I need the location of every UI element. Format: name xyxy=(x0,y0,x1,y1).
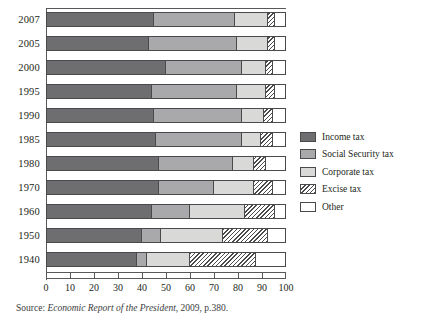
y-axis-label-2005: 2005 xyxy=(0,38,40,49)
x-axis-tick-90 xyxy=(262,273,263,279)
bar-row xyxy=(46,36,286,51)
y-axis-label-1940: 1940 xyxy=(0,254,40,265)
legend-label: Income tax xyxy=(322,132,364,142)
bar-segment-corporate-tax xyxy=(242,109,263,122)
bar-row xyxy=(46,156,286,171)
bar-segment-excise-tax xyxy=(264,109,274,122)
legend-item: Social Security tax xyxy=(300,147,420,162)
y-axis-label-1970: 1970 xyxy=(0,182,40,193)
bar-segment-social-security-tax xyxy=(152,85,238,98)
bar-segment-other xyxy=(275,85,285,98)
bar-segment-income-tax xyxy=(47,109,154,122)
bar-segment-income-tax xyxy=(47,61,166,74)
legend-swatch-other xyxy=(300,202,316,212)
bar-segment-other xyxy=(266,157,285,170)
bar-segment-social-security-tax xyxy=(154,109,242,122)
x-axis-ticklabel-30: 30 xyxy=(113,282,123,293)
bar-segment-other xyxy=(256,253,285,266)
bar-segment-other xyxy=(273,109,285,122)
bar-segment-other xyxy=(273,181,285,194)
bar-segment-income-tax xyxy=(47,37,149,50)
bar-segment-excise-tax xyxy=(268,13,275,26)
bar-segment-corporate-tax xyxy=(190,205,245,218)
bar-segment-excise-tax xyxy=(261,133,273,146)
bar-segment-social-security-tax xyxy=(154,13,235,26)
legend-label: Corporate tax xyxy=(322,167,374,177)
source-suffix: , 2009, p.380. xyxy=(176,303,228,313)
x-axis-ticklabel-70: 70 xyxy=(209,282,219,293)
bar-segment-other xyxy=(273,133,285,146)
legend-label: Other xyxy=(322,202,344,212)
x-axis-tick-100 xyxy=(285,273,286,279)
bar-segment-income-tax xyxy=(47,181,159,194)
stacked-bar-1960 xyxy=(46,204,286,219)
y-axis-label-1995: 1995 xyxy=(0,86,40,97)
bar-segment-excise-tax xyxy=(223,229,268,242)
chart-legend: Income taxSocial Security taxCorporate t… xyxy=(300,129,420,217)
bar-segment-excise-tax xyxy=(266,61,273,74)
bar-row xyxy=(46,60,286,75)
x-axis-ticklabel-40: 40 xyxy=(137,282,147,293)
source-note: Source: Economic Report of the President… xyxy=(16,303,228,313)
stacked-bar-1950 xyxy=(46,228,286,243)
y-axis-label-1990: 1990 xyxy=(0,110,40,121)
stacked-bar-2005 xyxy=(46,36,286,51)
legend-item: Corporate tax xyxy=(300,164,420,179)
legend-label: Excise tax xyxy=(322,184,361,194)
bar-segment-social-security-tax xyxy=(166,61,242,74)
stacked-bar-1980 xyxy=(46,156,286,171)
bar-segment-corporate-tax xyxy=(233,157,254,170)
bar-segment-other xyxy=(273,61,285,74)
bar-segment-social-security-tax xyxy=(149,37,237,50)
bar-row xyxy=(46,132,286,147)
figure-stacked-bar-federal-tax-revenue-sources: Income taxSocial Security taxCorporate t… xyxy=(0,0,421,328)
bar-segment-income-tax xyxy=(47,157,159,170)
bar-segment-other xyxy=(275,13,285,26)
bar-row xyxy=(46,180,286,195)
bar-segment-corporate-tax xyxy=(242,61,266,74)
x-axis-tick-0 xyxy=(46,273,47,279)
legend-item: Excise tax xyxy=(300,182,420,197)
bar-segment-social-security-tax xyxy=(152,205,190,218)
x-axis-tick-10 xyxy=(70,273,71,279)
x-axis-ticklabel-80: 80 xyxy=(233,282,243,293)
legend-item: Income tax xyxy=(300,129,420,144)
bar-segment-excise-tax xyxy=(254,157,266,170)
bar-segment-excise-tax xyxy=(268,37,275,50)
bar-segment-income-tax xyxy=(47,253,137,266)
source-prefix: Source: xyxy=(16,303,47,313)
bar-segment-income-tax xyxy=(47,229,142,242)
legend-swatch-income-tax xyxy=(300,132,316,142)
y-axis-label-1950: 1950 xyxy=(0,230,40,241)
bar-segment-corporate-tax xyxy=(161,229,223,242)
legend-label: Social Security tax xyxy=(322,149,394,159)
bar-segment-excise-tax xyxy=(245,205,276,218)
bar-segment-social-security-tax xyxy=(137,253,147,266)
x-axis-tick-30 xyxy=(118,273,119,279)
bar-segment-corporate-tax xyxy=(147,253,190,266)
bar-row xyxy=(46,204,286,219)
bar-row xyxy=(46,12,286,27)
stacked-bar-1940 xyxy=(46,252,286,267)
bar-segment-excise-tax xyxy=(190,253,257,266)
x-axis-ticklabel-10: 10 xyxy=(65,282,75,293)
bar-row xyxy=(46,252,286,267)
x-axis-tick-60 xyxy=(190,273,191,279)
x-axis-tick-50 xyxy=(166,273,167,279)
x-axis-ticklabel-60: 60 xyxy=(185,282,195,293)
x-axis-tick-80 xyxy=(238,273,239,279)
bar-segment-corporate-tax xyxy=(237,37,268,50)
x-axis-ticklabel-0: 0 xyxy=(44,282,49,293)
x-axis-tick-70 xyxy=(214,273,215,279)
bar-segment-social-security-tax xyxy=(159,181,214,194)
bar-row xyxy=(46,108,286,123)
bar-segment-income-tax xyxy=(47,85,152,98)
legend-swatch-excise-tax xyxy=(300,184,316,194)
stacked-bar-1995 xyxy=(46,84,286,99)
bar-segment-corporate-tax xyxy=(242,133,261,146)
stacked-bar-2007 xyxy=(46,12,286,27)
legend-item: Other xyxy=(300,199,420,214)
stacked-bar-2000 xyxy=(46,60,286,75)
bar-segment-excise-tax xyxy=(254,181,273,194)
legend-swatch-social-security-tax xyxy=(300,149,316,159)
